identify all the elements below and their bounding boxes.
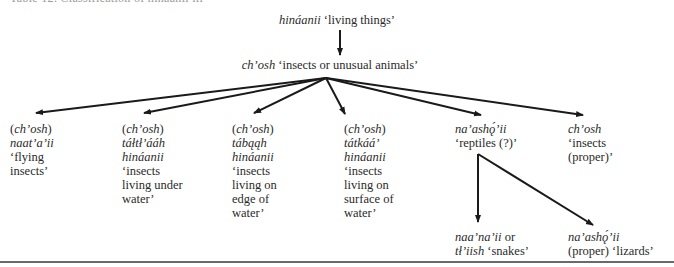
gloss-line: ‘insects — [568, 136, 613, 150]
gloss-line: ‘reptiles (?)’ — [455, 136, 517, 150]
term: hináanii — [344, 150, 394, 164]
gloss-line: (proper)’ — [568, 150, 613, 164]
grandchild-snakes: naa’na’ii or tł’iish ‘snakes’ — [455, 230, 529, 258]
child-reptiles: na’ashǫ́’ii ‘reptiles (?)’ — [455, 122, 517, 150]
arrow-to-flying-insects — [36, 78, 326, 113]
root-gloss: ‘living things’ — [324, 13, 395, 27]
gloss-line: water’ — [344, 206, 394, 220]
gloss-line: living on — [232, 178, 277, 192]
bottom-rule — [0, 261, 674, 263]
gloss: ‘snakes’ — [484, 244, 529, 258]
term: tábąąh — [232, 136, 277, 150]
term: tátkáá’ — [344, 136, 394, 150]
term: na’ashǫ́’ii — [568, 230, 654, 244]
term: hináanii — [122, 150, 183, 164]
term: na’ashǫ́’ii — [455, 122, 517, 136]
gloss-line: living under — [122, 178, 183, 192]
level1-term: ch’osh — [242, 58, 275, 72]
parenthetical-chosh: (ch’osh) — [10, 122, 54, 136]
gloss-line: water’ — [232, 206, 277, 220]
gloss-line: water’ — [122, 192, 183, 206]
gloss-line: ‘flying — [10, 150, 54, 164]
parenthetical-chosh: (ch’osh) — [122, 122, 183, 136]
child-insects-surface-of-water: (ch’osh) tátkáá’ hináanii ‘insects livin… — [344, 122, 394, 220]
child-insects-edge-of-water: (ch’osh) tábąąh hináanii ‘insects living… — [232, 122, 277, 220]
term: ch’osh — [568, 122, 613, 136]
gloss-line: ‘insects — [122, 164, 183, 178]
arrow-to-surface-of-water — [326, 78, 345, 114]
parenthetical-chosh: (ch’osh) — [232, 122, 277, 136]
conjunction: or — [502, 230, 516, 244]
child-insects-proper: ch’osh ‘insects (proper)’ — [568, 122, 613, 164]
level1-node: ch’osh ‘insects or unusual animals’ — [242, 58, 418, 72]
gloss-line: surface of — [344, 192, 394, 206]
term: táłtł’ááh — [122, 136, 183, 150]
child-insects-under-water: (ch’osh) táłtł’ááh hináanii ‘insects liv… — [122, 122, 183, 206]
gloss-line: insects’ — [10, 164, 54, 178]
term: tł’iish — [455, 244, 484, 258]
term: hináanii — [232, 150, 277, 164]
parenthetical-chosh: (ch’osh) — [344, 122, 394, 136]
gloss-line: ‘insects — [232, 164, 277, 178]
gloss-line: edge of — [232, 192, 277, 206]
level1-gloss: ‘insects or unusual animals’ — [278, 58, 418, 72]
gloss: (proper) ‘lizards’ — [568, 244, 654, 258]
root-node: hináanii ‘living things’ — [279, 13, 395, 27]
arrow-to-under-water — [144, 78, 326, 113]
gloss-line: ‘insects — [344, 164, 394, 178]
term: naat’a’ii — [10, 136, 54, 150]
term: naa’na’ii — [455, 230, 502, 244]
child-flying-insects: (ch’osh) naat’a’ii ‘flying insects’ — [10, 122, 54, 178]
grandchild-lizards: na’ashǫ́’ii (proper) ‘lizards’ — [568, 230, 654, 258]
root-term: hináanii — [279, 13, 321, 27]
arrow-to-lizards — [478, 154, 593, 225]
gloss-line: living on — [344, 178, 394, 192]
